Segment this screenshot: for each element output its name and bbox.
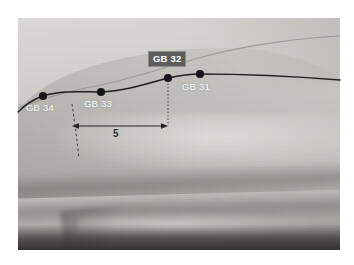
point-label-gb32: GB 32 bbox=[148, 51, 186, 67]
body-contour-line bbox=[18, 36, 340, 108]
point-label-gb33: GB 33 bbox=[84, 98, 112, 109]
point-gb32[interactable] bbox=[164, 74, 172, 82]
measurement-value-label: 5 bbox=[113, 128, 119, 139]
figure-root: GB 34 GB 33 GB 32 GB 31 5 bbox=[0, 0, 354, 265]
annotation-overlay bbox=[0, 0, 354, 265]
point-label-gb31: GB 31 bbox=[182, 81, 210, 92]
guide-line-left bbox=[72, 104, 79, 158]
point-gb31[interactable] bbox=[196, 70, 204, 78]
point-gb34[interactable] bbox=[39, 92, 47, 100]
measurement-arrow bbox=[72, 123, 168, 128]
point-label-gb34: GB 34 bbox=[26, 102, 54, 113]
meridian-line bbox=[18, 74, 340, 112]
point-gb33[interactable] bbox=[97, 88, 105, 96]
